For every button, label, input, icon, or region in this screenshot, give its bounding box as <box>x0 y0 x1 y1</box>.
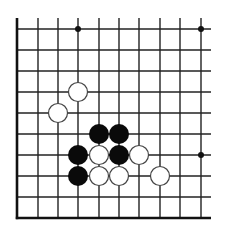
black-stone-icon <box>109 124 129 144</box>
black-stone-icon <box>68 145 88 165</box>
black-stone-icon <box>68 166 88 186</box>
white-stone-icon <box>110 167 129 186</box>
black-stone-icon <box>89 124 109 144</box>
star-point-icon <box>198 152 204 158</box>
white-stone-icon <box>90 146 109 165</box>
star-point-icon <box>75 26 81 32</box>
star-point-icon <box>198 26 204 32</box>
white-stone-icon <box>69 83 88 102</box>
grid-lines <box>17 18 211 218</box>
white-stone-icon <box>130 146 149 165</box>
black-stone-icon <box>109 145 129 165</box>
white-stone-icon <box>49 104 68 123</box>
board-edges <box>16 18 211 219</box>
go-board-canvas <box>0 0 226 235</box>
go-board <box>0 0 226 235</box>
white-stone-icon <box>90 167 109 186</box>
white-stone-icon <box>151 167 170 186</box>
